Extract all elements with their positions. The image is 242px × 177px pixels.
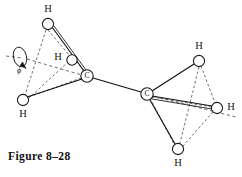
atom-H1-circle [42, 18, 53, 29]
bond-C2-H5-a [152, 96, 212, 106]
atom-label-H4: H [195, 40, 203, 51]
phi-angle-label: ϕ [17, 66, 21, 75]
bond-C2-H6 [150, 100, 175, 144]
atom-label-H2: H [54, 51, 62, 62]
atom-label-C1: C [84, 71, 89, 80]
atom-label-H1: H [44, 3, 52, 14]
atom-H3-circle [17, 94, 28, 105]
atom-H5-circle [211, 102, 222, 113]
figure-container: ϕ H H H C [0, 0, 242, 177]
atom-label-H5: H [227, 101, 235, 112]
figure-caption: Figure 8–28 [8, 150, 71, 162]
rotation-axis-stub-left [6, 56, 22, 58]
atom-label-H6: H [174, 157, 182, 168]
atom-H4-circle [193, 55, 204, 66]
atom-label-H3: H [19, 108, 27, 119]
bond-C1-C2 [93, 78, 141, 92]
atom-H2-circle [67, 55, 77, 65]
edge-H4-H5 [201, 66, 215, 103]
atom-label-C2: C [144, 89, 149, 98]
bond-C2-H4 [152, 64, 194, 91]
edge-H5-H6 [183, 112, 213, 146]
bond-C1-H1-a [52, 27, 84, 71]
bond-C1-H3 [27, 79, 82, 97]
atom-H6-circle [172, 143, 183, 154]
